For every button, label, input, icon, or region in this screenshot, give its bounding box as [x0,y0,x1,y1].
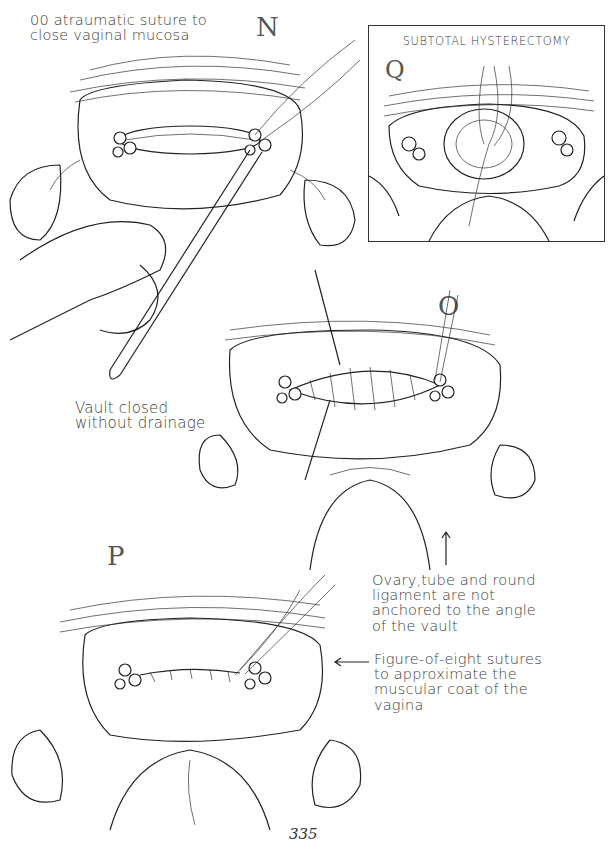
figure-q-inset: SUBTOTAL HYSTERECTOMY Q [368,25,605,242]
figure-o-caption-line-2: without drainage [75,416,205,431]
arrow-up-icon [440,530,452,565]
figure-n-caption-line-1: 00 atraumatic suture to [30,13,207,28]
figure-o-caption: Vault closed without drainage [75,401,205,431]
figure-o-annotation-line-3: anchored to the angle [372,603,536,618]
figure-p-annotation-line-2: to approximate the [374,667,542,682]
figure-p-annotation-line-3: muscular coat of the [374,682,542,697]
figure-p-annotation-line-1: Figure-of-eight sutures [374,652,542,667]
arrow-left-icon [333,656,369,668]
figure-n-caption: 00 atraumatic suture to close vaginal mu… [30,13,207,42]
figure-p-illustration [0,560,370,830]
figure-n-label: N [256,12,279,42]
figure-o-illustration [190,270,550,570]
figure-o-annotation: Ovary,tube and round ligament are not an… [372,573,536,634]
figure-o-annotation-line-2: ligament are not [372,588,536,603]
figure-p-annotation: Figure-of-eight sutures to approximate t… [374,652,542,713]
figure-p-annotation-line-4: vagina [374,698,542,713]
figure-q-illustration [369,26,604,241]
figure-o-annotation-line-4: of the vault [372,619,536,634]
page-number: 335 [289,825,318,843]
figure-o-annotation-line-1: Ovary,tube and round [372,573,536,588]
